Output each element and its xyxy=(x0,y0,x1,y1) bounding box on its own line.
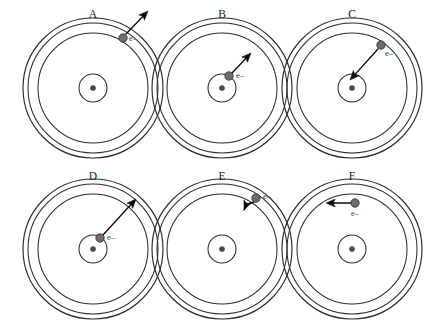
electron-label-e: e– xyxy=(263,191,272,201)
nucleus-core-e xyxy=(219,246,224,251)
electron-label-c: e– xyxy=(385,48,394,58)
panel-label-c: C xyxy=(348,8,356,20)
electron-label-a: e– xyxy=(129,33,138,43)
panel-label-e: E xyxy=(218,170,225,182)
bohr-diagram-canvas: e–Ae–Be–Ce–De–Ee–F xyxy=(0,0,440,323)
nucleus-core-f xyxy=(349,246,354,251)
panel-label-f: F xyxy=(349,170,355,182)
figure-root: e–Ae–Be–Ce–De–Ee–F xyxy=(0,0,440,323)
electron-dot-c xyxy=(377,41,385,49)
nucleus-core-d xyxy=(90,246,95,251)
electron-label-f: e– xyxy=(351,208,360,218)
nucleus-core-b xyxy=(219,85,224,90)
electron-dot-f xyxy=(351,199,359,207)
panel-label-d: D xyxy=(89,170,97,182)
panel-label-b: B xyxy=(218,8,226,20)
panel-label-a: A xyxy=(89,8,98,20)
electron-label-b: e– xyxy=(236,70,245,80)
electron-dot-b xyxy=(225,72,233,80)
nucleus-core-c xyxy=(349,85,354,90)
electron-dot-e xyxy=(252,194,260,202)
electron-dot-a xyxy=(119,34,127,42)
figure-background xyxy=(0,0,440,323)
nucleus-core-a xyxy=(90,85,95,90)
electron-dot-d xyxy=(96,234,104,242)
electron-label-d: e– xyxy=(107,232,116,242)
